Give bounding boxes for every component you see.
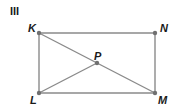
label-K: K bbox=[28, 22, 37, 34]
geometry-diagram: III K N L M P bbox=[0, 0, 183, 105]
point-N bbox=[153, 31, 157, 35]
label-P: P bbox=[94, 50, 102, 62]
label-N: N bbox=[160, 22, 169, 34]
label-L: L bbox=[30, 94, 37, 105]
point-K bbox=[37, 31, 41, 35]
point-M bbox=[153, 91, 157, 95]
figure-number: III bbox=[10, 5, 19, 17]
label-M: M bbox=[158, 94, 168, 105]
point-L bbox=[37, 91, 41, 95]
segment-LP bbox=[39, 63, 97, 93]
